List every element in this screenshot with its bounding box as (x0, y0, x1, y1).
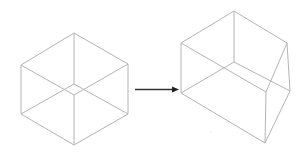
diagram-canvas (0, 0, 304, 158)
left-cube (21, 33, 128, 145)
right-prism (181, 11, 290, 143)
transform-arrow (135, 87, 179, 93)
stray-dot (210, 131, 211, 132)
